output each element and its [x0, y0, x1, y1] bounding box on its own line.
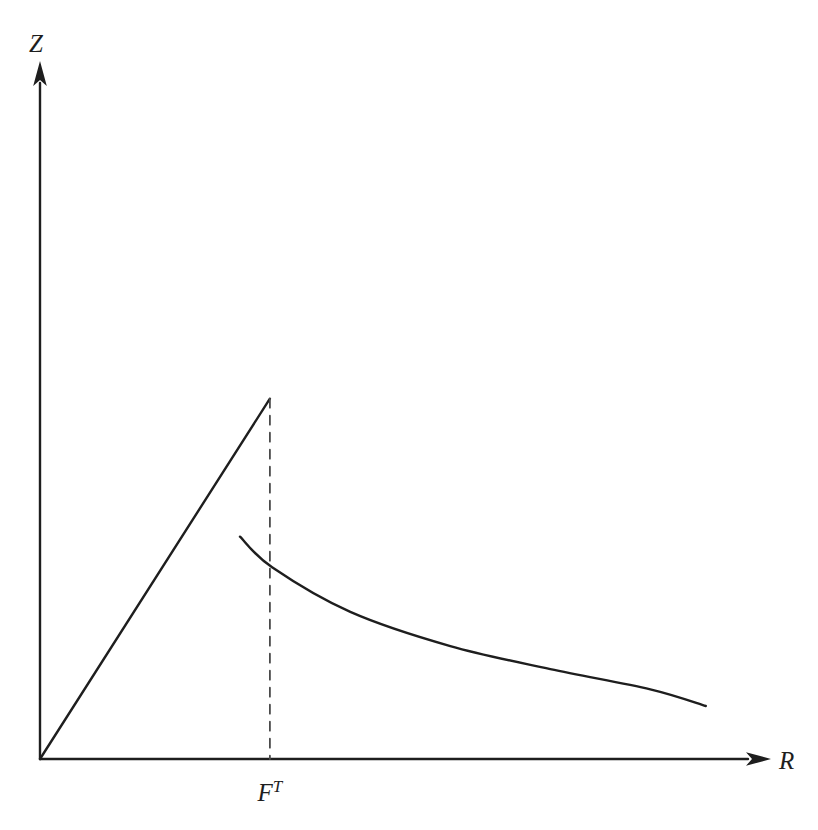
threshold-label-superscript: T	[273, 777, 284, 796]
threshold-label: FT	[257, 777, 284, 806]
rising-line	[40, 399, 270, 759]
axes	[33, 61, 771, 766]
declining-curve	[240, 537, 706, 706]
figure-canvas: Z R FT	[0, 0, 818, 830]
chart-svg: Z R FT	[0, 0, 818, 830]
y-axis-label: Z	[29, 30, 44, 57]
threshold-label-base: F	[257, 779, 274, 806]
series-group	[40, 399, 706, 759]
x-axis-label: R	[778, 747, 794, 774]
x-axis-arrowhead-icon	[746, 752, 771, 766]
